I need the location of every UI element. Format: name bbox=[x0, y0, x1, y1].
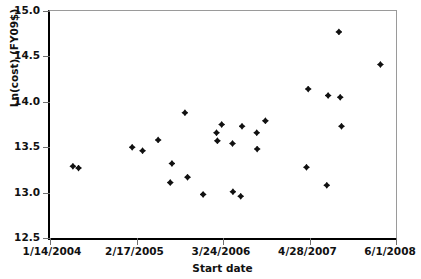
x-tick-label: 4/28/2007 bbox=[263, 246, 353, 257]
data-point bbox=[237, 193, 244, 200]
plot-area bbox=[48, 10, 397, 240]
y-tick-mark bbox=[43, 147, 50, 148]
data-point bbox=[139, 147, 146, 154]
x-tick-label: 6/1/2008 bbox=[345, 246, 421, 257]
x-tick-mark bbox=[310, 238, 311, 245]
y-tick-label: 13.5 bbox=[0, 141, 40, 152]
data-point bbox=[200, 191, 207, 198]
y-tick-label: 14.0 bbox=[0, 96, 40, 107]
x-tick-mark bbox=[396, 238, 397, 245]
scatter-chart-figure: 15.014.514.013.513.012.5 1/14/20042/17/2… bbox=[0, 0, 421, 279]
data-point bbox=[229, 188, 236, 195]
y-tick-mark bbox=[43, 238, 50, 239]
x-tick-label: 3/24/2006 bbox=[176, 246, 266, 257]
data-point bbox=[75, 165, 82, 172]
data-point bbox=[229, 140, 236, 147]
data-point bbox=[325, 92, 332, 99]
x-axis-title: Start date bbox=[48, 262, 397, 274]
data-point bbox=[184, 174, 191, 181]
data-point bbox=[167, 179, 174, 186]
data-point bbox=[168, 160, 175, 167]
y-tick-mark bbox=[43, 193, 50, 194]
data-point bbox=[338, 123, 345, 130]
data-point bbox=[253, 129, 260, 136]
data-point bbox=[323, 182, 330, 189]
y-tick-mark bbox=[43, 11, 50, 12]
data-point bbox=[214, 137, 221, 144]
x-tick-label: 2/17/2005 bbox=[90, 246, 180, 257]
y-tick-label: 12.5 bbox=[0, 232, 40, 243]
data-point bbox=[213, 129, 220, 136]
x-tick-mark bbox=[223, 238, 224, 245]
data-point bbox=[181, 109, 188, 116]
data-point bbox=[239, 123, 246, 130]
data-points-layer bbox=[50, 11, 396, 238]
x-tick-label: 1/14/2004 bbox=[7, 246, 97, 257]
data-point bbox=[305, 86, 312, 93]
data-point bbox=[129, 144, 136, 151]
data-point bbox=[218, 121, 225, 128]
data-point bbox=[262, 117, 269, 124]
y-tick-label: 15.0 bbox=[0, 5, 40, 16]
data-point bbox=[155, 136, 162, 143]
data-point bbox=[303, 164, 310, 171]
x-tick-mark bbox=[137, 238, 138, 245]
x-tick-mark bbox=[50, 238, 51, 245]
data-point bbox=[337, 94, 344, 101]
data-point bbox=[377, 61, 384, 68]
y-tick-mark bbox=[43, 102, 50, 103]
data-point bbox=[254, 146, 261, 153]
data-point bbox=[335, 28, 342, 35]
y-axis-title: Ln(cost) (FY09$) bbox=[8, 0, 20, 128]
y-tick-label: 13.0 bbox=[0, 187, 40, 198]
y-tick-label: 14.5 bbox=[0, 50, 40, 61]
data-point bbox=[69, 163, 76, 170]
y-tick-mark bbox=[43, 56, 50, 57]
